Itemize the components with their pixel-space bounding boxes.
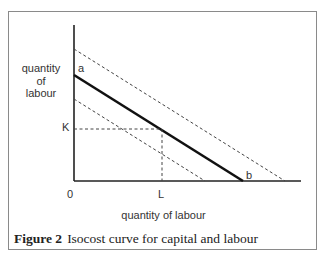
y-axis-label: quantity of labour [16,62,66,100]
y-label-line-1: quantity [16,62,66,75]
figure-caption: Figure 2Isocost curve for capital and la… [14,231,258,247]
lower-isocost-line [74,99,205,181]
figure-number: Figure 2 [14,231,62,246]
origin-label: 0 [67,188,73,200]
x-axis-label: quantity of labour [0,209,327,221]
higher-isocost-line [74,49,285,181]
x-tick-l: L [158,188,164,200]
y-tick-k: K [62,121,69,133]
isocost-line-ab [74,75,243,181]
point-b-label: b [246,169,252,181]
point-a-label: a [78,62,84,74]
isocost-chart [0,0,327,262]
y-label-line-3: labour [16,87,66,100]
caption-text: Isocost curve for capital and labour [67,231,258,246]
y-label-line-2: of [16,75,66,88]
